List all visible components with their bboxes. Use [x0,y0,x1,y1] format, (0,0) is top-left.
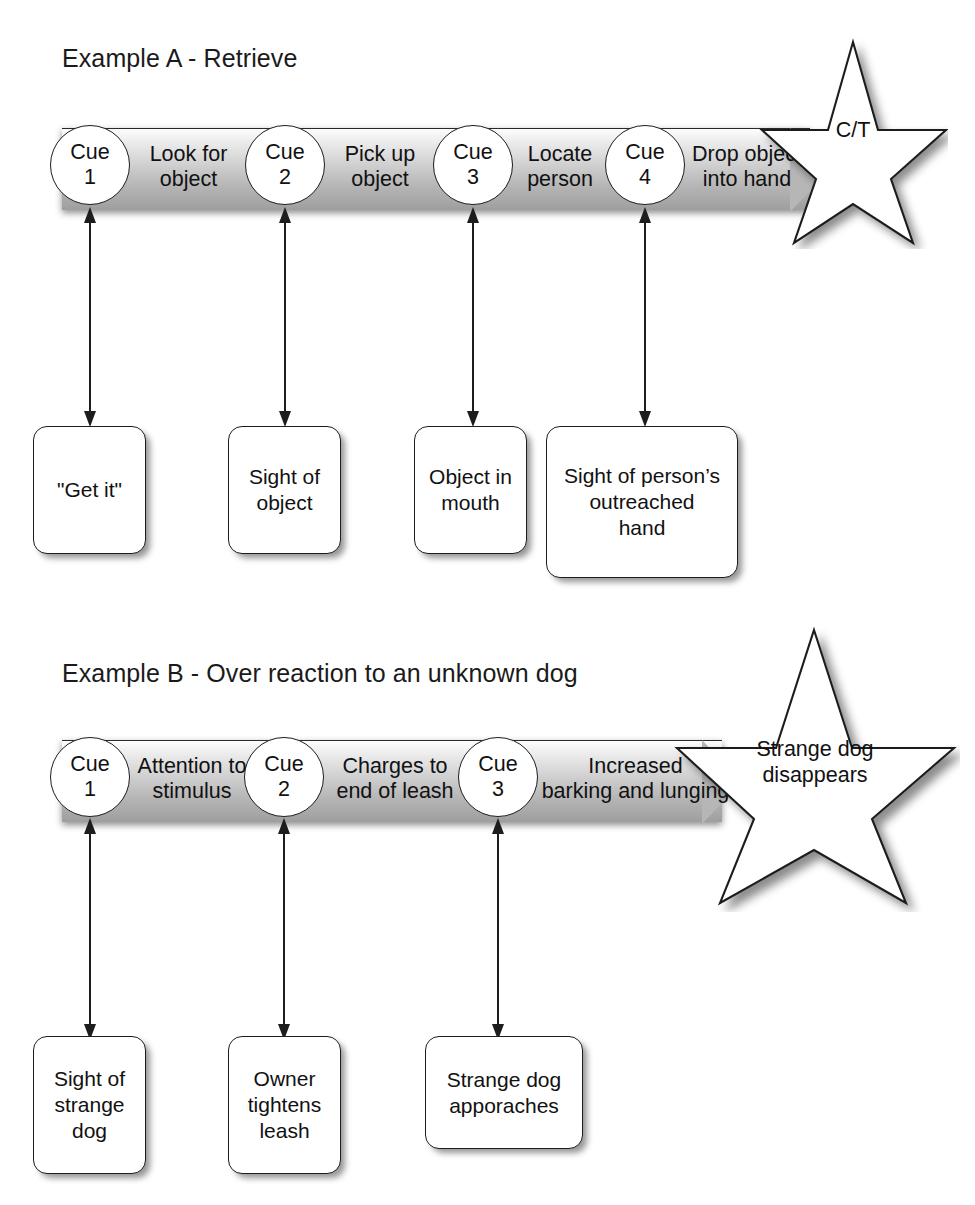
example-b-antecedent-1[interactable]: Sight of strange dog [33,1036,146,1174]
example-b-cue-3[interactable]: Cue 3 [458,737,538,817]
example-b-antecedent-3[interactable]: Strange dog apporaches [425,1036,583,1149]
cue-number: 1 [84,777,96,802]
example-b-arrow-1 [80,818,100,1040]
example-b-title: Example B - Over reaction to an unknown … [62,659,578,688]
example-b-arrow-2 [274,818,294,1040]
example-a-antecedent-2[interactable]: Sight of object [228,426,341,554]
example-a-cue-1[interactable]: Cue 1 [50,125,130,205]
cue-number: 2 [279,165,291,190]
example-a-arrow-1 [80,207,100,427]
example-a-antecedent-3[interactable]: Object in mouth [414,426,527,554]
cue-label: Cue [625,140,664,165]
example-b-antecedent-2[interactable]: Owner tightens leash [228,1036,341,1174]
cue-label: Cue [265,140,304,165]
example-a-cue-4[interactable]: Cue 4 [605,125,685,205]
example-b-cue-1[interactable]: Cue 1 [50,737,130,817]
diagram-canvas: Example A - Retrieve Cue 1 Cue 2 Cue 3 C… [0,0,975,1205]
cue-number: 1 [84,165,96,190]
example-a-segment-2: Pick up object [325,142,435,192]
cue-number: 3 [467,165,479,190]
example-a-segment-3: Locate person [513,142,607,192]
example-b-segment-1: Attention to stimulus [127,754,257,804]
example-a-cue-3[interactable]: Cue 3 [433,125,513,205]
cue-label: Cue [70,752,109,777]
example-a-arrow-2 [275,207,295,427]
cue-label: Cue [70,140,109,165]
example-a-antecedent-4[interactable]: Sight of person’s outreached hand [546,426,738,578]
cue-number: 3 [492,777,504,802]
example-b-star-label: Strange dog disappears [730,736,900,788]
example-a-arrow-4 [635,207,655,427]
example-a-title: Example A - Retrieve [62,44,297,73]
example-b-segment-2: Charges to end of leash [325,754,465,804]
example-a-cue-2[interactable]: Cue 2 [245,125,325,205]
example-a-star-label: C/T [793,117,913,143]
example-a-segment-1: Look for object [131,142,246,192]
cue-number: 4 [639,165,651,190]
cue-label: Cue [453,140,492,165]
cue-label: Cue [478,752,517,777]
cue-number: 2 [278,777,290,802]
example-a-arrow-3 [463,207,483,427]
example-b-arrow-3 [488,818,508,1040]
cue-label: Cue [264,752,303,777]
example-a-antecedent-1[interactable]: "Get it" [33,426,146,554]
